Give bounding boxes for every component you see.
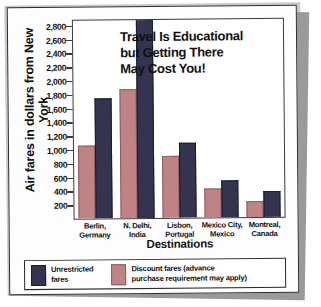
chart-title-line: May Cost You! [120, 60, 282, 77]
chart-area: Air fares in dollars from New York 20040… [8, 6, 300, 255]
y-axis-tick-label: 2,400 [8, 49, 74, 60]
legend-label: Unrestrictedfares [51, 265, 94, 285]
x-axis-category-line: Montreal, [243, 220, 285, 230]
y-axis-tick-mark [66, 26, 72, 27]
y-axis-tick-label: 2,200 [8, 63, 74, 74]
y-axis-tick-label: 1,600 [9, 104, 75, 115]
legend-label-line: Unrestricted [51, 265, 93, 275]
y-axis-tick-label: 200 [9, 201, 75, 212]
chart-title-line: Travel Is Educational [120, 28, 282, 45]
y-axis-tick-mark [66, 81, 72, 82]
legend-swatch [111, 264, 126, 285]
legend-label-line: fares [51, 275, 93, 285]
legend-item: Discount fares (advancepurchase requirem… [111, 263, 247, 285]
y-axis-ticks: 2004006008001,0001,2001,4001,6001,8002,0… [8, 6, 298, 9]
bar-unrestricted [221, 180, 238, 217]
y-axis-tick-label: 2,000 [8, 77, 74, 88]
chart-legend: UnrestrictedfaresDiscount fares (advance… [24, 258, 286, 290]
y-axis-tick-mark [67, 205, 73, 206]
y-axis-tick-mark [67, 122, 73, 123]
y-axis-tick-label: 2,800 [8, 22, 74, 33]
bar-discount [162, 156, 180, 218]
x-axis-title: Destinations [74, 237, 286, 251]
bar-unrestricted [95, 98, 113, 219]
bar-discount [119, 89, 137, 218]
bar-discount [246, 201, 263, 217]
bar-discount [204, 188, 221, 217]
legend-item: Unrestrictedfares [31, 264, 94, 286]
x-axis-category-line: N. Delhi, [116, 221, 158, 231]
y-axis-tick-mark [67, 95, 73, 96]
y-axis-tick-mark [66, 40, 72, 41]
y-axis-tick-label: 1,200 [9, 132, 75, 143]
y-axis-tick-mark [67, 136, 73, 137]
y-axis-tick-label: 1,800 [8, 91, 74, 102]
y-axis-tick-mark [67, 178, 73, 179]
bar-unrestricted [263, 191, 280, 217]
bar-discount [78, 146, 96, 219]
y-axis-tick-mark [67, 191, 73, 192]
y-axis-tick-label: 800 [9, 159, 75, 170]
x-axis-category-line: Lisbon, [158, 221, 200, 231]
bar-unrestricted [179, 143, 197, 218]
legend-swatch [31, 264, 46, 285]
y-axis-tick-label: 1,400 [9, 118, 75, 129]
chart-card: Air fares in dollars from New York 20040… [7, 5, 300, 296]
y-axis-tick-label: 1,000 [9, 146, 75, 157]
legend-label-line: purchase requirement may apply) [131, 273, 246, 284]
y-axis-tick-mark [66, 53, 72, 54]
chart-title: Travel Is Educationalbut Getting ThereMa… [120, 28, 282, 77]
y-axis-tick-mark [67, 150, 73, 151]
legend-label: Discount fares (advancepurchase requirem… [131, 263, 247, 284]
y-axis-tick-mark [66, 67, 72, 68]
y-axis-tick-label: 400 [9, 187, 75, 198]
chart-title-line: but Getting There [120, 44, 282, 61]
y-axis-tick-mark [67, 109, 73, 110]
y-axis-tick-label: 2,600 [8, 35, 74, 46]
y-axis-tick-label: 600 [9, 173, 75, 184]
x-axis-category-line: Berlin, [74, 221, 116, 231]
y-axis-tick-mark [67, 164, 73, 165]
x-axis-category-line: Mexico City, [201, 220, 243, 230]
bar-group [73, 20, 117, 218]
